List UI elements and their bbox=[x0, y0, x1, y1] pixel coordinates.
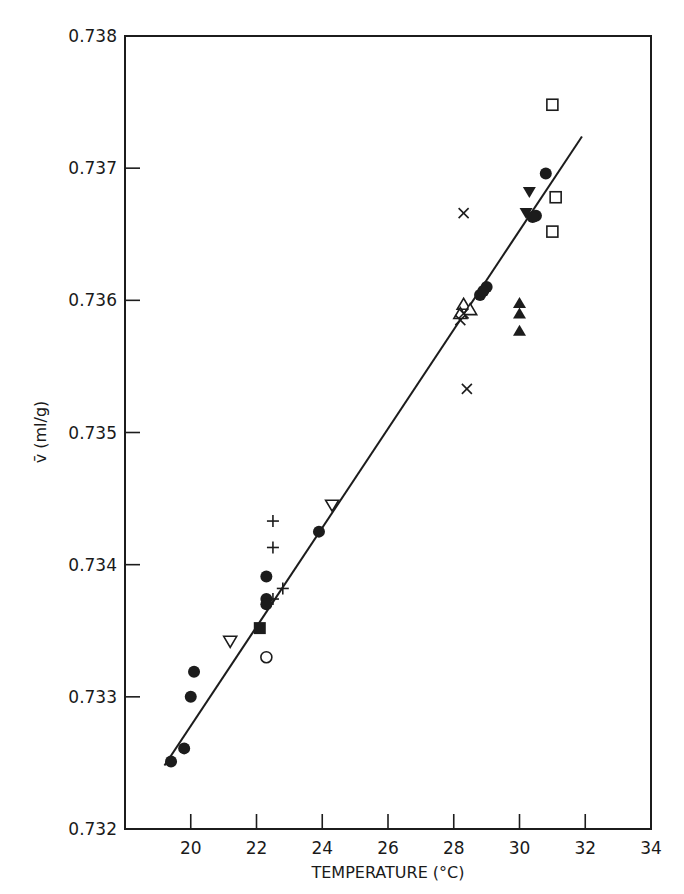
regression-line bbox=[164, 136, 582, 765]
filled-circle-marker bbox=[540, 167, 552, 179]
x-tick-label: 30 bbox=[509, 838, 531, 858]
x-tick-label: 22 bbox=[246, 838, 268, 858]
x-tick-label: 26 bbox=[377, 838, 399, 858]
plot-border bbox=[125, 36, 651, 829]
x-axis-title: TEMPERATURE (°C) bbox=[310, 863, 464, 882]
fit-line bbox=[164, 136, 582, 765]
y-axis-title: v̄ (ml/g) bbox=[31, 401, 50, 464]
filled-circle-marker bbox=[260, 571, 272, 583]
filled-circle-marker bbox=[313, 526, 325, 538]
y-tick-label: 0.735 bbox=[68, 423, 117, 443]
filled-circle-marker bbox=[178, 742, 190, 754]
y-axis-ticks: 0.7320.7330.7340.7350.7360.7370.738 bbox=[68, 26, 140, 839]
open-square-marker bbox=[550, 192, 561, 203]
y-tick-label: 0.734 bbox=[68, 555, 117, 575]
open-circle-marker bbox=[261, 652, 272, 663]
filled-square-marker bbox=[254, 622, 266, 634]
filled-circle-marker bbox=[185, 691, 197, 703]
open-triangle-down-marker bbox=[224, 636, 237, 647]
filled-triangle-down-marker bbox=[523, 187, 536, 198]
y-tick-label: 0.732 bbox=[68, 819, 117, 839]
y-tick-label: 0.738 bbox=[68, 26, 117, 46]
filled-triangle-up-marker bbox=[513, 297, 526, 308]
scatter-chart: 2022242628303234 0.7320.7330.7340.7350.7… bbox=[0, 0, 684, 894]
filled-circle-marker bbox=[260, 598, 272, 610]
y-tick-label: 0.733 bbox=[68, 687, 117, 707]
x-tick-label: 28 bbox=[443, 838, 465, 858]
open-square-marker bbox=[547, 226, 558, 237]
x-tick-label: 20 bbox=[180, 838, 202, 858]
y-tick-label: 0.737 bbox=[68, 158, 117, 178]
y-tick-label: 0.736 bbox=[68, 290, 117, 310]
filled-triangle-up-marker bbox=[513, 308, 526, 319]
data-points bbox=[165, 99, 561, 767]
x-axis-ticks: 2022242628303234 bbox=[180, 814, 662, 858]
filled-circle-marker bbox=[188, 666, 200, 678]
filled-circle-marker bbox=[477, 285, 489, 297]
x-tick-label: 24 bbox=[311, 838, 333, 858]
filled-triangle-up-marker bbox=[513, 325, 526, 336]
plot-frame bbox=[125, 36, 651, 829]
x-tick-label: 32 bbox=[574, 838, 596, 858]
filled-circle-marker bbox=[165, 756, 177, 768]
open-square-marker bbox=[547, 99, 558, 110]
x-tick-label: 34 bbox=[640, 838, 662, 858]
